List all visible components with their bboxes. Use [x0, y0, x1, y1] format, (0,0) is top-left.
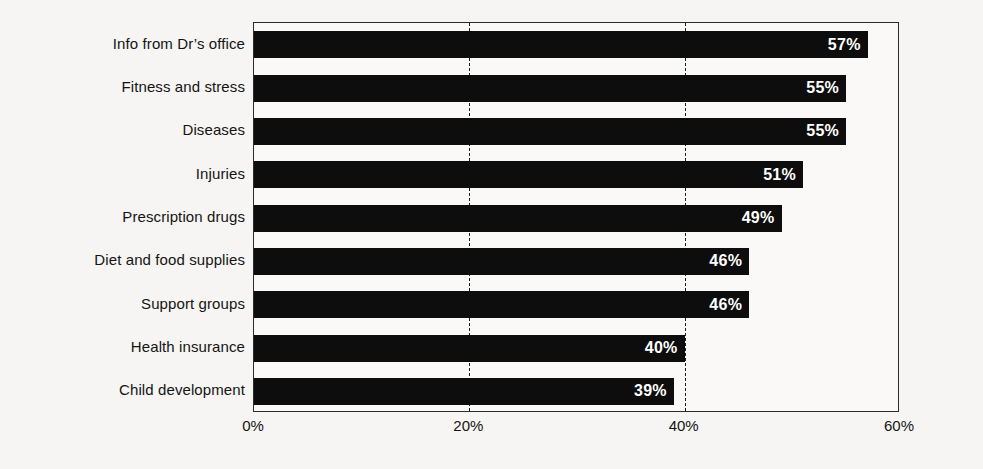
x-tick-label: 40% [669, 418, 699, 433]
bar-row: 55% [254, 118, 900, 145]
x-tick-label: 20% [453, 418, 483, 433]
bar: 49% [254, 205, 782, 232]
category-label: Prescription drugs [0, 209, 245, 224]
bar-value-label: 55% [806, 80, 839, 96]
bar: 55% [254, 118, 846, 145]
category-label: Child development [0, 382, 245, 397]
bar-row: 46% [254, 291, 900, 318]
bar: 51% [254, 161, 803, 188]
bar-value-label: 51% [763, 167, 796, 183]
category-axis: Info from Dr’s officeFitness and stressD… [0, 22, 245, 412]
horizontal-bar-chart: Info from Dr’s officeFitness and stressD… [0, 0, 983, 469]
category-label: Diet and food supplies [0, 252, 245, 267]
category-label: Support groups [0, 296, 245, 311]
x-tick-label: 0% [242, 418, 264, 433]
bar: 46% [254, 248, 749, 275]
plot-area: 57%55%55%51%49%46%46%40%39% [253, 22, 899, 412]
bar-value-label: 46% [709, 297, 742, 313]
category-label: Info from Dr’s office [0, 36, 245, 51]
bar: 40% [254, 335, 685, 362]
bar-row: 40% [254, 335, 900, 362]
bar: 57% [254, 31, 868, 58]
bar-row: 51% [254, 161, 900, 188]
bar-row: 46% [254, 248, 900, 275]
category-label: Health insurance [0, 339, 245, 354]
bar-row: 39% [254, 378, 900, 405]
category-label: Fitness and stress [0, 79, 245, 94]
x-axis-tick-labels: 0%20%40%60% [253, 418, 899, 446]
bar-value-label: 40% [645, 340, 678, 356]
bar-value-label: 49% [742, 210, 775, 226]
category-label: Diseases [0, 122, 245, 137]
bar-value-label: 46% [709, 253, 742, 269]
x-tick-label: 60% [884, 418, 914, 433]
bar: 55% [254, 75, 846, 102]
bar-row: 55% [254, 75, 900, 102]
bar: 39% [254, 378, 674, 405]
bar-value-label: 39% [634, 383, 667, 399]
bar-row: 57% [254, 31, 900, 58]
bar-row: 49% [254, 205, 900, 232]
bar-value-label: 57% [828, 37, 861, 53]
bar-value-label: 55% [806, 123, 839, 139]
bar: 46% [254, 291, 749, 318]
category-label: Injuries [0, 166, 245, 181]
